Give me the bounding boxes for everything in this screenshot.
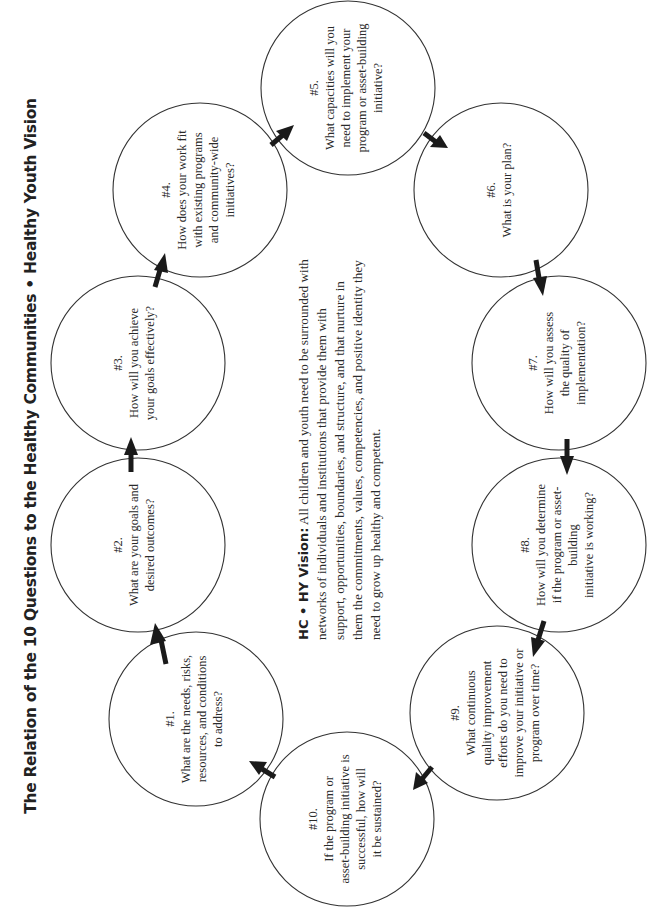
question-7-number: #7. — [526, 355, 540, 371]
question-1-number: #1. — [163, 711, 177, 727]
question-4-line: How does your work fit — [175, 130, 189, 250]
question-4-number: #4. — [159, 182, 173, 198]
question-8-number: #8. — [518, 537, 532, 553]
vision-first-line: HC • HY Vision: All children and youth n… — [296, 259, 311, 640]
question-7-line: the quality of — [558, 329, 572, 396]
question-6-number: #6. — [484, 182, 498, 198]
question-5-line: program or asset-building — [355, 23, 369, 153]
question-8-line: initiative is working? — [582, 491, 596, 598]
question-7-line: How will you assess — [542, 312, 556, 415]
question-4-line: and community-wide — [207, 136, 221, 243]
question-5-number: #5. — [307, 80, 321, 96]
vision-line: them the commitments, values, competenci… — [350, 260, 365, 640]
question-6-line: What is your plan? — [500, 142, 514, 237]
question-8-line: How will you determine — [534, 484, 548, 606]
question-1-line: resources, and conditions — [195, 656, 209, 783]
vision-statement: HC • HY Vision: All children and youth n… — [296, 259, 383, 640]
vision-line: All children and youth need to be surrou… — [296, 259, 311, 528]
diagram-canvas: The Relation of the 10 Questions to the … — [0, 0, 662, 912]
question-9-number: #9. — [448, 705, 462, 721]
question-5-line: What capacities will you — [323, 25, 337, 150]
vision-line: support, opportunities, boundaries, and … — [332, 281, 347, 640]
question-9-line: What continuous — [464, 670, 478, 755]
question-8-line: building — [566, 523, 580, 565]
question-4-line: with existing programs — [191, 132, 205, 247]
question-8-line: if the program or asset- — [550, 487, 564, 604]
question-9-line: program over time? — [528, 663, 542, 762]
question-10-line: If the program or — [322, 775, 336, 862]
question-4-line: initiatives? — [223, 162, 237, 217]
question-9-line: improve your initiative or — [512, 648, 526, 778]
question-10-line: it be sustained? — [370, 780, 384, 858]
question-2-line: desired outcomes? — [143, 498, 157, 591]
question-3-number: #3. — [111, 355, 125, 371]
question-3-line: your goals effectively? — [143, 305, 157, 420]
vision-line: networks of individuals and institutions… — [314, 308, 329, 640]
question-9-line: quality improvement — [480, 660, 494, 765]
vision-line: need to grow up healthy and competent. — [368, 429, 383, 640]
question-10-line: asset-building initiative is — [338, 754, 352, 883]
question-10-line: successful, how will — [354, 768, 368, 870]
question-2-number: #2. — [111, 537, 125, 553]
diagram-title: The Relation of the 10 Questions to the … — [22, 98, 40, 814]
question-3-line: How will you achieve — [127, 308, 141, 418]
question-7-line: implementation? — [574, 321, 588, 405]
question-1-line: What are the needs, risks, — [179, 655, 193, 783]
question-5-line: need to implement your — [339, 28, 353, 148]
vision-label: HC • HY Vision: — [296, 528, 311, 640]
question-1-line: to address? — [211, 691, 225, 747]
question-9-line: efforts do you need to — [496, 658, 510, 767]
question-10-number: #10. — [306, 808, 320, 830]
question-2-line: What are your goals and — [127, 483, 141, 606]
question-5-line: initiative? — [371, 63, 385, 113]
